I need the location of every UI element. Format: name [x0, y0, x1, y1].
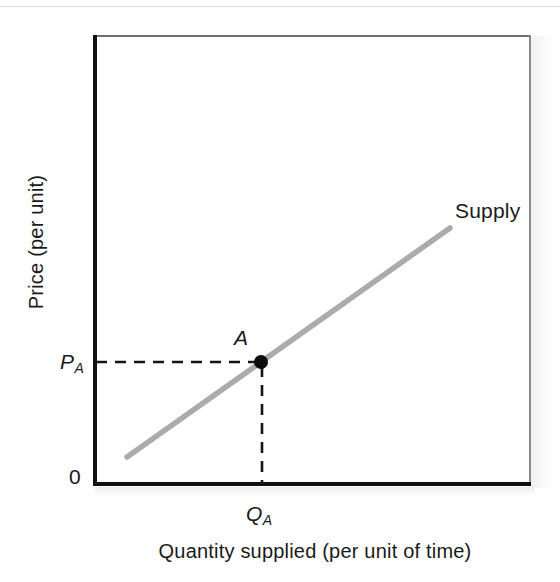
point-a-marker: [254, 355, 268, 369]
price-tick-symbol: P: [60, 350, 74, 373]
x-axis-title: Quantity supplied (per unit of time): [110, 541, 520, 561]
price-tick-subscript: A: [74, 360, 84, 376]
origin-label: 0: [69, 466, 81, 487]
supply-curve-line: [127, 228, 450, 457]
supply-curve-label: Supply: [455, 200, 520, 221]
plot-graphics-layer: [0, 0, 560, 582]
quantity-tick-label: QA: [246, 503, 272, 527]
price-tick-label: PA: [60, 351, 84, 375]
quantity-tick-symbol: Q: [246, 502, 262, 525]
point-a-label: A: [234, 327, 248, 348]
quantity-tick-subscript: A: [262, 512, 272, 528]
supply-curve-figure: Price (per unit) Quantity supplied (per …: [0, 0, 560, 582]
y-axis-title: Price (per unit): [26, 132, 46, 352]
